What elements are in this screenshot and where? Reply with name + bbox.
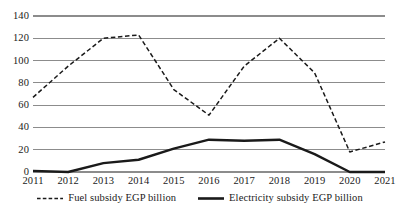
x-axis: 2011201220132014201520162017201820192020… [33,175,385,189]
y-tick-label-100: 100 [1,56,29,67]
x-tick-label-2013: 2013 [93,175,114,186]
x-tick-label-2015: 2015 [163,175,184,186]
x-tick-label-2019: 2019 [304,175,325,186]
series-line-electricity [33,140,385,172]
x-tick-label-2014: 2014 [128,175,149,186]
y-tick-label-80: 80 [1,78,29,89]
x-tick-label-2012: 2012 [57,175,78,186]
chart-legend: Fuel subsidy EGP billionElectricity subs… [0,192,400,204]
y-tick-label-60: 60 [1,100,29,111]
plot-area [33,16,385,172]
x-tick-label-2020: 2020 [339,175,360,186]
legend-swatch-solid-icon [198,195,224,202]
x-tick-label-2021: 2021 [374,175,395,186]
y-tick-label-40: 40 [1,122,29,133]
y-tick-label-120: 120 [1,33,29,44]
x-tick-label-2011: 2011 [22,175,43,186]
x-tick-label-2016: 2016 [198,175,219,186]
legend-label: Electricity subsidy EGP billion [229,192,363,204]
legend-item-electricity[interactable]: Electricity subsidy EGP billion [198,192,363,204]
legend-swatch-dashed-icon [37,195,63,202]
series-lines [33,16,385,172]
x-tick-label-2017: 2017 [233,175,254,186]
legend-item-fuel[interactable]: Fuel subsidy EGP billion [37,192,176,204]
x-tick-label-2018: 2018 [269,175,290,186]
line-chart: 140120100806040200 201120122013201420152… [0,0,400,214]
series-line-fuel [33,35,385,152]
y-tick-label-20: 20 [1,145,29,156]
y-tick-label-140: 140 [1,11,29,22]
legend-label: Fuel subsidy EGP billion [68,192,176,204]
